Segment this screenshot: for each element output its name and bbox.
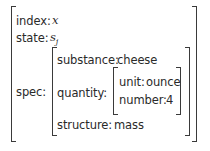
outer-right-bracket <box>192 6 197 142</box>
substance-attr: substance: <box>57 55 119 67</box>
index-value: x <box>52 15 58 27</box>
unit-value: ounce <box>146 77 181 89</box>
index-attr: index: <box>16 16 51 28</box>
quantity-left-bracket <box>113 67 118 115</box>
unit-attr: unit: <box>119 77 145 89</box>
spec-attr: spec: <box>16 87 46 99</box>
state-attr: state: <box>16 33 48 45</box>
structure-value: mass <box>114 120 144 132</box>
substance-value: cheese <box>117 55 157 67</box>
number-attr: number: <box>119 95 167 107</box>
structure-attr: structure: <box>57 120 112 132</box>
number-value: 4 <box>166 95 173 107</box>
state-value-base: s <box>50 30 56 44</box>
state-value: sj <box>50 32 58 44</box>
quantity-attr: quantity: <box>57 88 107 100</box>
state-value-subscript: j <box>56 37 58 46</box>
spec-right-bracket <box>185 47 190 136</box>
